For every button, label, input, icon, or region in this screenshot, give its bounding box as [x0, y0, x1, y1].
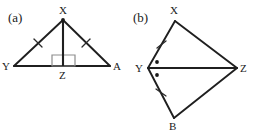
- vertex-label-y-b: Y: [135, 62, 143, 74]
- vertex-dot-x: [61, 18, 65, 22]
- segment-xz: [175, 21, 237, 68]
- vertex-label-y-a: Y: [2, 60, 10, 72]
- angle-dot-lower-y: [155, 73, 159, 77]
- geometry-figure-svg: (a) X Y A Z (b): [0, 0, 253, 133]
- angle-dot-upper-y: [155, 60, 159, 64]
- panel-a-group: (a) X Y A Z: [2, 4, 121, 81]
- vertex-label-z-a: Z: [59, 69, 66, 81]
- panel-a-label: (a): [8, 10, 22, 25]
- panel-b-label: (b): [133, 10, 148, 25]
- panel-b-group: (b) X Y Z B: [133, 4, 247, 132]
- tick-yx: [157, 41, 166, 48]
- vertex-label-x-a: X: [59, 4, 67, 16]
- segment-bz: [174, 68, 237, 118]
- vertex-label-b-b: B: [169, 120, 176, 132]
- vertex-label-x-b: X: [170, 4, 178, 16]
- vertex-label-z-b: Z: [240, 62, 247, 74]
- geometry-figure-container: (a) X Y A Z (b): [0, 0, 253, 133]
- vertex-label-a-a: A: [113, 60, 121, 72]
